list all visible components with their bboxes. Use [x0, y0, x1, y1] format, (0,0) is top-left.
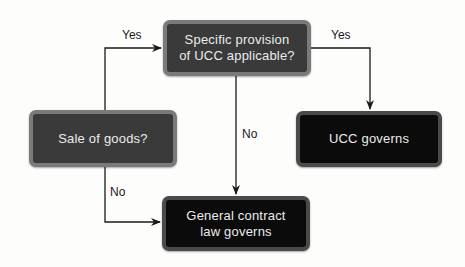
edge-label-no: No: [110, 185, 125, 199]
node-sale-of-goods: Sale of goods?: [29, 110, 177, 167]
node-text: of UCC applicable?: [179, 48, 295, 64]
edge-label-yes: Yes: [331, 28, 351, 42]
node-text: law governs: [186, 224, 285, 240]
node-specific-provision: Specific provision of UCC applicable?: [163, 20, 311, 76]
edge-label-yes: Yes: [122, 28, 142, 42]
node-ucc-governs: UCC governs: [296, 111, 442, 167]
edge-label-no: No: [242, 127, 257, 141]
node-text: UCC governs: [329, 131, 409, 147]
node-text: Sale of goods?: [58, 131, 148, 147]
node-general-contract: General contract law governs: [162, 196, 310, 251]
node-text: General contract: [186, 208, 285, 224]
node-text: Specific provision: [179, 32, 295, 48]
